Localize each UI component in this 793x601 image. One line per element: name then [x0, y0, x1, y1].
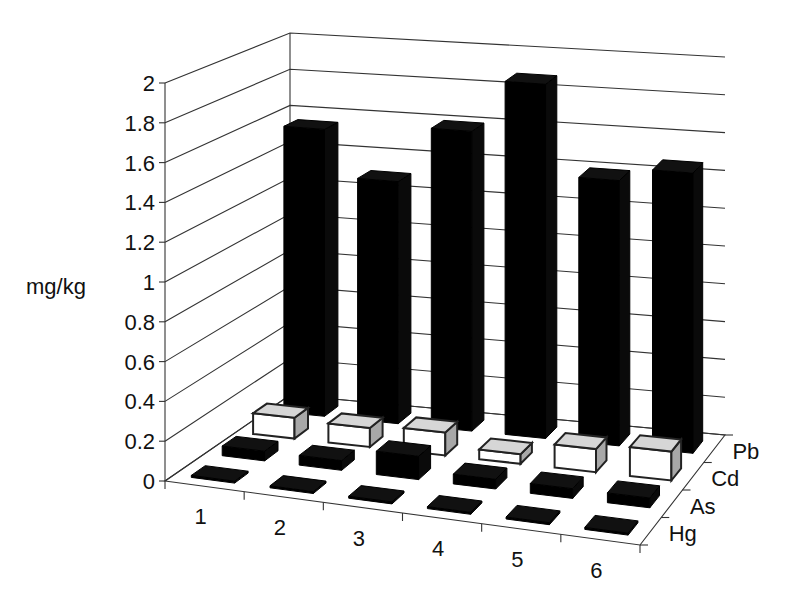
x-tick-label: 6	[590, 558, 602, 583]
y-tick-label: 0.6	[124, 350, 155, 375]
depth-label-as: As	[690, 494, 716, 519]
depth-label-pb: Pb	[732, 439, 759, 464]
x-tick-label: 3	[353, 526, 365, 551]
y-tick-label: 1.6	[124, 151, 155, 176]
bar-hg-3	[349, 486, 404, 504]
bar-pb-4	[505, 73, 557, 438]
bar-hg-1	[191, 466, 248, 483]
bar-hg-2	[270, 476, 326, 494]
x-tick-label: 5	[511, 547, 523, 572]
bar-as-6	[607, 481, 659, 508]
x-tick-label: 4	[432, 536, 444, 561]
bar-as-1	[222, 436, 278, 461]
bar-pb-2	[358, 171, 411, 424]
chart-bars	[191, 73, 702, 535]
bar-as-3	[376, 441, 430, 480]
3d-bar-chart: 00.20.40.60.811.21.41.61.82 123456 HgAsC…	[0, 0, 793, 601]
bar-as-4	[453, 463, 507, 489]
bar-pb-6	[653, 160, 703, 454]
y-tick-label: 0.4	[124, 389, 155, 414]
bar-pb-3	[431, 120, 484, 431]
bar-cd-2	[328, 413, 382, 447]
y-tick-label: 1.4	[124, 190, 155, 215]
bar-hg-5	[506, 505, 560, 524]
depth-label-hg: Hg	[669, 521, 697, 546]
bar-cd-6	[630, 435, 681, 480]
y-tick-label: 1.8	[124, 111, 155, 136]
bar-pb-1	[284, 120, 338, 417]
depth-label-cd: Cd	[711, 466, 739, 491]
y-tick-label: 2	[143, 71, 155, 96]
y-tick-label: 0	[143, 469, 155, 494]
bar-cd-1	[253, 404, 308, 439]
bar-cd-4	[479, 439, 532, 464]
y-tick-label: 1.2	[124, 230, 155, 255]
y-axis-ticks: 00.20.40.60.811.21.41.61.82	[124, 71, 165, 494]
bar-pb-5	[579, 168, 630, 446]
bar-as-2	[299, 445, 354, 470]
y-tick-label: 1	[143, 270, 155, 295]
gridline	[165, 33, 725, 83]
bar-hg-6	[585, 515, 638, 535]
x-tick-label: 1	[194, 504, 206, 529]
y-tick-label: 0.2	[124, 429, 155, 454]
y-axis-title: mg/kg	[26, 274, 86, 299]
x-tick-label: 2	[274, 515, 286, 540]
bar-as-5	[530, 472, 583, 498]
bar-hg-4	[427, 496, 482, 515]
y-tick-label: 0.8	[124, 310, 155, 335]
bar-cd-5	[555, 433, 607, 472]
